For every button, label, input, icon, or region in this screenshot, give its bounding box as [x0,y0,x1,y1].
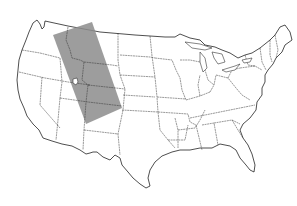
us-map [0,0,297,206]
map-container: Contiguous United States outline map wit… [0,0,297,206]
